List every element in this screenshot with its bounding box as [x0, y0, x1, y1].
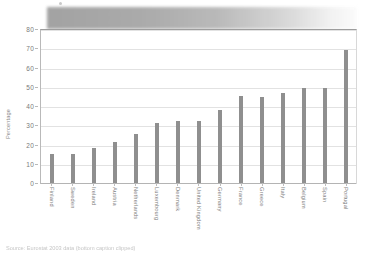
- x-tick-label: Italy: [280, 187, 286, 198]
- x-tick-label: Ireland: [91, 187, 97, 205]
- x-tick-label: Belgium: [301, 187, 307, 209]
- y-tick-label-70: 70: [26, 45, 34, 52]
- x-tick-mark: [135, 183, 136, 186]
- y-tick-mark-50: [35, 87, 38, 88]
- y-tick-mark-10: [35, 164, 38, 165]
- y-axis: Percentage 01020304050607080: [0, 29, 38, 184]
- x-label-slot: Spain: [315, 185, 336, 243]
- bar-slot: [252, 29, 273, 183]
- x-tick-label: Netherlands: [133, 187, 139, 219]
- x-tick-label: Finland: [49, 187, 55, 207]
- bar-slot: [62, 29, 83, 183]
- y-tick-label-0: 0: [30, 180, 34, 187]
- x-tick-label: United Kingdom: [196, 187, 202, 230]
- x-label-slot: Greece: [252, 185, 273, 243]
- bar[interactable]: [197, 121, 201, 183]
- x-label-slot: Ireland: [83, 185, 104, 243]
- bar-slot: [188, 29, 209, 183]
- x-label-slot: Netherlands: [125, 185, 146, 243]
- bar-slot: [315, 29, 336, 183]
- y-tick-label-50: 50: [26, 83, 34, 90]
- x-tick-mark: [283, 183, 284, 186]
- bar[interactable]: [113, 142, 117, 183]
- x-tick-label: Spain: [322, 187, 328, 202]
- x-tick-label: Austria: [112, 187, 118, 206]
- x-tick-mark: [325, 183, 326, 186]
- figure-caption: Source: Eurostat 2003 data (bottom capti…: [6, 244, 306, 253]
- x-label-slot: Sweden: [62, 185, 83, 243]
- title-banner: [47, 7, 357, 29]
- y-tick-label-40: 40: [26, 103, 34, 110]
- redacted-title-bar: [47, 7, 357, 29]
- x-tick-mark: [93, 183, 94, 186]
- x-axis-labels: FinlandSwedenIrelandAustriaNetherlandsLu…: [41, 185, 357, 245]
- x-tick-mark: [198, 183, 199, 186]
- x-tick-label: Germany: [217, 187, 223, 212]
- bar[interactable]: [218, 110, 222, 183]
- bar-slot: [273, 29, 294, 183]
- bar-slot: [167, 29, 188, 183]
- x-tick-mark: [72, 183, 73, 186]
- x-tick-label: Greece: [259, 187, 265, 207]
- bar-slot: [210, 29, 231, 183]
- y-tick-label-20: 20: [26, 141, 34, 148]
- x-tick-mark: [346, 183, 347, 186]
- y-tick-label-80: 80: [26, 26, 34, 33]
- banner-speck: [59, 2, 62, 5]
- x-tick-mark: [51, 183, 52, 186]
- y-tick-label-10: 10: [26, 160, 34, 167]
- y-tick-mark-20: [35, 145, 38, 146]
- x-tick-mark: [241, 183, 242, 186]
- x-tick-mark: [156, 183, 157, 186]
- bar-series: [41, 29, 357, 183]
- x-tick-mark: [262, 183, 263, 186]
- x-tick-label: France: [238, 187, 244, 206]
- x-label-slot: Denmark: [167, 185, 188, 243]
- bar[interactable]: [92, 148, 96, 183]
- bar-slot: [294, 29, 315, 183]
- bar[interactable]: [134, 134, 138, 183]
- bar-slot: [125, 29, 146, 183]
- x-label-slot: France: [231, 185, 252, 243]
- bar[interactable]: [176, 121, 180, 183]
- y-axis-title: Percentage: [5, 91, 11, 157]
- x-tick-label: Sweden: [70, 187, 76, 209]
- x-label-slot: Portugal: [336, 185, 357, 243]
- bar-slot: [104, 29, 125, 183]
- x-tick-label: Denmark: [175, 187, 181, 211]
- bar-slot: [336, 29, 357, 183]
- x-label-slot: United Kingdom: [188, 185, 209, 243]
- bar[interactable]: [71, 154, 75, 183]
- bar[interactable]: [281, 93, 285, 183]
- bar-slot: [231, 29, 252, 183]
- x-label-slot: Italy: [273, 185, 294, 243]
- y-tick-label-30: 30: [26, 122, 34, 129]
- x-tick-label: Portugal: [343, 187, 349, 209]
- bar[interactable]: [155, 123, 159, 183]
- bar-slot: [83, 29, 104, 183]
- x-label-slot: Luxembourg: [146, 185, 167, 243]
- y-tick-mark-60: [35, 68, 38, 69]
- x-tick-mark: [114, 183, 115, 186]
- y-tick-mark-0: [35, 183, 38, 184]
- y-tick-label-60: 60: [26, 64, 34, 71]
- y-tick-mark-80: [35, 29, 38, 30]
- bar[interactable]: [260, 97, 264, 183]
- y-tick-mark-70: [35, 48, 38, 49]
- bar-slot: [41, 29, 62, 183]
- x-tick-mark: [177, 183, 178, 186]
- bar[interactable]: [302, 88, 306, 183]
- bar[interactable]: [344, 50, 348, 183]
- x-tick-mark: [220, 183, 221, 186]
- bar[interactable]: [239, 96, 243, 183]
- x-tick-label: Luxembourg: [154, 187, 160, 220]
- x-label-slot: Belgium: [294, 185, 315, 243]
- bar[interactable]: [323, 88, 327, 183]
- bar[interactable]: [50, 154, 54, 183]
- x-tick-mark: [304, 183, 305, 186]
- bar-slot: [146, 29, 167, 183]
- y-tick-mark-40: [35, 106, 38, 107]
- x-label-slot: Finland: [41, 185, 62, 243]
- x-label-slot: Austria: [104, 185, 125, 243]
- y-tick-mark-30: [35, 125, 38, 126]
